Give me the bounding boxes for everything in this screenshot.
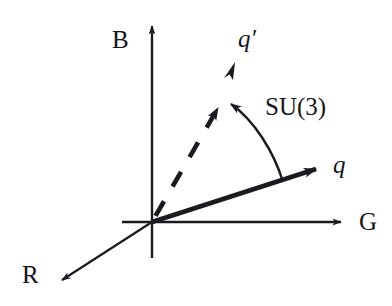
- axis-label-blue: B: [112, 27, 129, 52]
- vector-label-q-prime: q′: [238, 26, 256, 51]
- annotation-label-su3: SU(3): [265, 94, 326, 119]
- axis-line-red: [62, 222, 152, 280]
- vector-head-q-prime-continuation: [224, 62, 235, 80]
- axis-label-green: G: [359, 209, 377, 234]
- vector-label-q: q: [333, 152, 346, 177]
- color-space-diagram: B G R q q′ SU(3): [0, 0, 392, 306]
- axis-label-red: R: [22, 262, 39, 287]
